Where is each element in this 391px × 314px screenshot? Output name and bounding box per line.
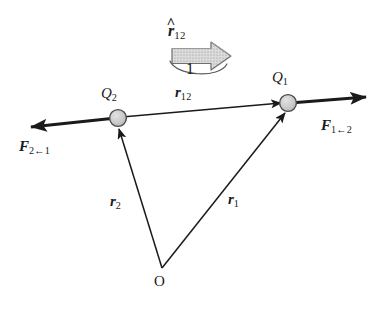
force-on-2-by-1-label: F2←1 bbox=[19, 139, 50, 156]
diagram-canvas bbox=[0, 0, 391, 314]
hat-accent-icon: ^ bbox=[167, 15, 176, 30]
position-vector-2-arrow bbox=[119, 129, 162, 268]
force-on-1-by-2-arrow bbox=[290, 97, 366, 103]
position-vector-2-label: r2 bbox=[110, 194, 121, 211]
charge-2-marker bbox=[110, 110, 127, 127]
position-vector-1-label: r1 bbox=[228, 192, 239, 209]
origin-label: O bbox=[154, 274, 165, 289]
charge-2-label: Q2 bbox=[101, 86, 117, 103]
force-on-2-by-1-arrow bbox=[31, 118, 116, 127]
charge-1-label: Q1 bbox=[272, 70, 288, 87]
unit-vector-label: ^r12 bbox=[168, 23, 186, 41]
unit-vector-block-arrow bbox=[172, 42, 231, 70]
position-vector-1-arrow bbox=[162, 113, 285, 268]
force-on-1-by-2-label: F1←2 bbox=[321, 118, 352, 135]
separation-vector-label: r12 bbox=[175, 85, 191, 102]
unit-length-label: 1 bbox=[186, 61, 194, 77]
coulomb-force-diagram: ^r12 1 Q2 Q1 r12 F1←2 F2←1 r2 r1 O bbox=[0, 0, 391, 314]
separation-vector-arrow bbox=[122, 103, 281, 117]
charge-1-marker bbox=[280, 95, 297, 112]
